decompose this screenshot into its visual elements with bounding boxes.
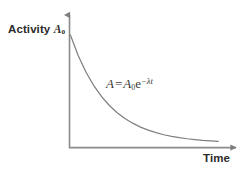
equation-operator: = — [114, 76, 123, 91]
y-axis-label-text: Activity — [8, 23, 50, 35]
y-axis-label-symbol: A0 — [54, 23, 65, 35]
x-axis-label: Time — [203, 153, 230, 165]
y-axis-label: Activity A0 — [8, 24, 65, 36]
decay-equation-annotation: A=A0e−λt — [106, 77, 153, 92]
equation-exponent-variable: t — [150, 76, 152, 86]
decay-curve-figure: Activity A0 Time A=A0e−λt — [0, 0, 252, 171]
equation-exponent: −λt — [141, 76, 153, 86]
equation-lhs: A — [106, 76, 114, 91]
y-axis-symbol-subscript: 0 — [61, 28, 65, 36]
